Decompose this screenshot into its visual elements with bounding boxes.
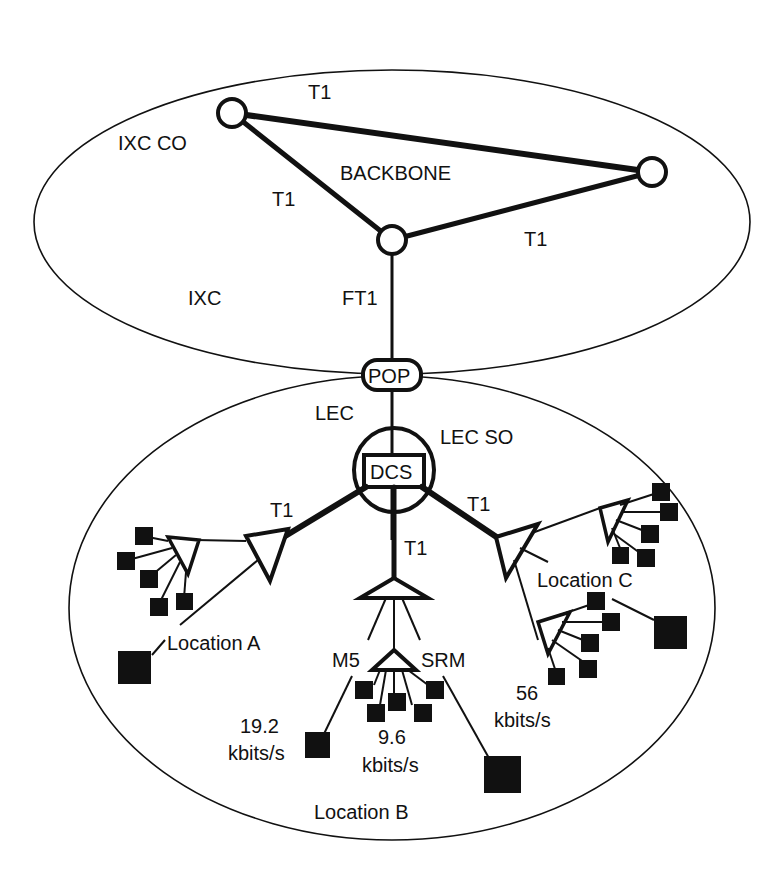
rate-right-value: 56 <box>516 682 538 704</box>
pop-label: POP <box>368 365 410 387</box>
rate-left-unit: kbits/s <box>228 742 285 764</box>
location-b-submux <box>372 650 416 670</box>
link-label-t1-top: T1 <box>308 81 331 103</box>
rate-left-value: 19.2 <box>240 715 279 737</box>
location-c-submux-upper <box>600 500 628 542</box>
location-a-label: Location A <box>167 632 261 654</box>
ft1-label: FT1 <box>342 287 378 309</box>
location-b-mux <box>360 578 428 598</box>
location-b-mux-right-label: SRM <box>421 649 465 671</box>
dcs-label: DCS <box>370 461 412 483</box>
lec-so-label: LEC SO <box>440 426 513 448</box>
dcs-link-label-center: T1 <box>404 537 427 559</box>
backbone-node-right <box>638 158 666 186</box>
location-b-terminals <box>305 681 521 793</box>
backbone-node-bottom <box>378 226 406 254</box>
location-a-submux <box>168 537 199 574</box>
location-b-label: Location B <box>314 801 409 823</box>
location-c-label: Location C <box>537 569 633 591</box>
link-label-t1-right: T1 <box>524 228 547 250</box>
rate-center-value: 9.6 <box>378 726 406 748</box>
dcs-links <box>282 487 498 580</box>
ixc-co-label: IXC CO <box>118 132 187 154</box>
network-diagram: T1 IXC CO BACKBONE T1 T1 IXC FT1 POP LEC… <box>0 0 768 884</box>
backbone-links <box>232 113 652 365</box>
dcs-link-label-left: T1 <box>270 499 293 521</box>
location-a-mux <box>246 529 288 581</box>
backbone-label: BACKBONE <box>340 162 451 184</box>
ixc-co-node <box>218 99 246 127</box>
link-label-t1-left: T1 <box>272 188 295 210</box>
location-b-mux-left-label: M5 <box>332 649 360 671</box>
rate-right-unit: kbits/s <box>494 709 551 731</box>
ixc-region-label: IXC <box>188 287 221 309</box>
lec-region-label: LEC <box>315 402 354 424</box>
dcs-link-label-right: T1 <box>467 493 490 515</box>
rate-center-unit: kbits/s <box>362 754 419 776</box>
